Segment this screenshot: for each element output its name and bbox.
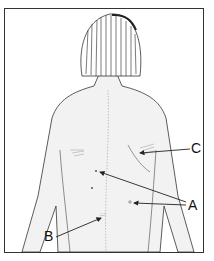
label-c: C (191, 141, 201, 155)
back-illustration: ∴∴ (0, 0, 214, 261)
svg-text:∴∴: ∴∴ (100, 212, 106, 217)
label-b: B (44, 229, 53, 243)
label-a: A (188, 198, 197, 212)
hair (81, 14, 141, 76)
torso-outline (22, 72, 194, 252)
